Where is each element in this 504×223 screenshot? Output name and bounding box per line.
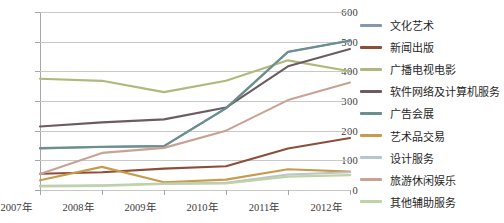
legend-item-5[interactable]: 广告会展 — [360, 102, 504, 124]
x-axis-tick-mark — [226, 190, 227, 195]
x-axis-tick-label: 2011年 — [249, 199, 280, 214]
legend-item-7[interactable]: 设计服务 — [360, 147, 504, 169]
x-axis-tick-label: 2012年 — [311, 199, 342, 214]
series-line-4 — [40, 49, 350, 126]
legend-item-3[interactable]: 广播电视电影 — [360, 58, 504, 80]
legend-item-2[interactable]: 新闻出版 — [360, 36, 504, 58]
line-chart: 0100200300400500600 2007年2008年2009年2010年… — [0, 0, 504, 223]
legend-label: 旅游休闲娱乐 — [390, 172, 456, 188]
legend-swatch-icon — [360, 134, 382, 137]
legend-item-8[interactable]: 旅游休闲娱乐 — [360, 169, 504, 191]
legend-swatch-icon — [360, 24, 382, 27]
plot-area — [40, 12, 350, 190]
x-axis-tick-mark — [350, 190, 351, 195]
series-line-3 — [40, 60, 350, 92]
legend-label: 设计服务 — [390, 150, 434, 166]
grid-line — [40, 190, 350, 191]
x-axis-tick-mark — [40, 190, 41, 195]
legend-label: 广告会展 — [390, 105, 434, 121]
series-line-5 — [40, 40, 350, 148]
legend-item-4[interactable]: 软件网络及计算机服务 — [360, 80, 504, 102]
legend-swatch-icon — [360, 178, 382, 181]
legend-label: 艺术品交易 — [390, 128, 445, 144]
legend-swatch-icon — [360, 90, 382, 93]
legend-item-6[interactable]: 艺术品交易 — [360, 124, 504, 146]
legend-label: 软件网络及计算机服务 — [390, 83, 500, 99]
legend-swatch-icon — [360, 112, 382, 115]
legend-label: 其他辅助服务 — [390, 194, 456, 210]
series-line-1 — [40, 41, 350, 149]
x-axis-tick-label: 2008年 — [63, 199, 94, 214]
legend-item-9[interactable]: 其他辅助服务 — [360, 191, 504, 213]
x-axis-tick-label: 2009年 — [125, 199, 156, 214]
x-axis-tick-mark — [288, 190, 289, 195]
legend-swatch-icon — [360, 200, 382, 203]
legend-label: 新闻出版 — [390, 39, 434, 55]
series-lines — [40, 12, 350, 190]
legend-swatch-icon — [360, 156, 382, 159]
plot-wrapper: 0100200300400500600 2007年2008年2009年2010年… — [0, 0, 358, 223]
x-axis-tick-label: 2007年 — [1, 199, 32, 214]
chart-legend: 文化艺术新闻出版广播电视电影软件网络及计算机服务广告会展艺术品交易设计服务旅游休… — [360, 14, 504, 213]
legend-label: 广播电视电影 — [390, 61, 456, 77]
x-axis-tick-mark — [102, 190, 103, 195]
x-axis-tick-mark — [164, 190, 165, 195]
legend-item-1[interactable]: 文化艺术 — [360, 14, 504, 36]
legend-swatch-icon — [360, 68, 382, 71]
legend-swatch-icon — [360, 46, 382, 49]
x-axis-tick-label: 2010年 — [187, 199, 218, 214]
legend-label: 文化艺术 — [390, 17, 434, 33]
series-line-2 — [40, 138, 350, 174]
